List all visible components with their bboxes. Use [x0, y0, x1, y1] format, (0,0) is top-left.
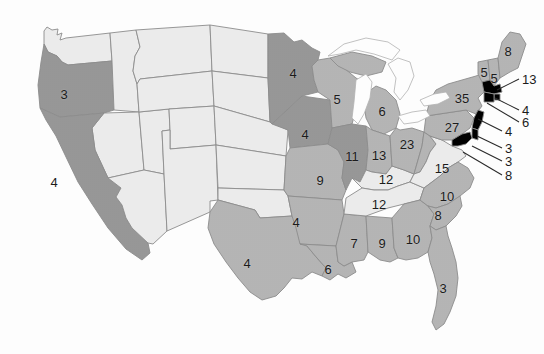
state-value-LA: 6 [324, 263, 331, 276]
state-value-MN: 4 [289, 67, 296, 80]
us-choropleth-map: 3444494651176139121223101510832735558 13… [0, 0, 544, 354]
callout-value-DC: 8 [505, 169, 512, 182]
lake-huron [388, 58, 414, 100]
state-value-FL: 3 [439, 282, 446, 295]
state-value-GA: 10 [406, 233, 420, 246]
state-value-TN: 12 [372, 198, 386, 211]
state-value-VA: 15 [435, 162, 449, 175]
state-value-MS: 7 [350, 237, 357, 250]
state-value-WI: 5 [333, 93, 340, 106]
callout-value-NJ: 4 [505, 125, 512, 138]
state-value-AL: 9 [378, 237, 385, 250]
state-value-CA: 4 [50, 176, 57, 189]
leader-line-DE [477, 136, 502, 148]
leader-line-NJ [478, 119, 502, 131]
state-shape-DE[interactable] [472, 128, 478, 140]
state-shape-MO[interactable] [284, 144, 346, 200]
state-value-SC: 8 [434, 209, 441, 222]
state-value-NY: 35 [455, 92, 469, 105]
state-shape-ND[interactable] [210, 25, 268, 78]
state-value-OR: 3 [60, 88, 67, 101]
state-value-PA: 27 [445, 121, 459, 134]
state-value-AR: 4 [292, 216, 299, 229]
state-value-OH: 23 [400, 138, 414, 151]
state-value-NC: 10 [440, 190, 454, 203]
leader-line-RI [495, 98, 519, 110]
state-value-IA: 4 [301, 128, 308, 141]
state-shape-CT[interactable] [484, 92, 494, 102]
state-value-VT: 5 [480, 66, 487, 79]
state-value-MO: 9 [316, 174, 323, 187]
state-value-NH: 5 [490, 72, 497, 85]
callout-value-MA: 13 [522, 73, 536, 86]
state-value-IN: 13 [372, 149, 386, 162]
state-value-IL: 11 [345, 150, 359, 163]
map-canvas [0, 0, 544, 354]
leader-line-MD [472, 146, 502, 161]
callout-value-CT: 6 [522, 116, 529, 129]
state-value-ME: 8 [504, 45, 511, 58]
state-shape-FL[interactable] [428, 226, 458, 330]
callout-value-MD: 3 [505, 155, 512, 168]
state-shape-GA[interactable] [392, 200, 434, 260]
state-value-KY: 12 [379, 173, 393, 186]
state-value-TX: 4 [243, 257, 250, 270]
state-value-MI: 6 [378, 105, 385, 118]
state-shape-CO[interactable] [169, 106, 216, 149]
leader-line-CT [487, 103, 519, 122]
